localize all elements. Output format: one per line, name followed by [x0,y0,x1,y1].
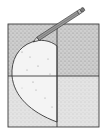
quadrant-top-right [57,24,99,76]
quadrant-heart-illustration [0,0,111,135]
quadrant-bottom-right [57,76,99,127]
